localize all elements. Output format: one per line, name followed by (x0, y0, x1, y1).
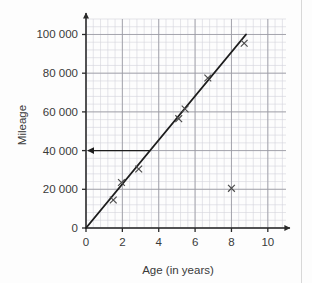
x-tick-label: 4 (156, 236, 163, 248)
axis-tick-marks (82, 34, 268, 232)
y-tick-label: 100 000 (36, 28, 78, 40)
x-axis-tick-labels: 0246810 (83, 236, 274, 248)
y-axis-tick-labels: 020 00040 00060 00080 000100 000 (36, 28, 78, 234)
data-point-marker (182, 106, 189, 113)
scatter-chart: 0246810 020 00040 00060 00080 000100 000… (0, 0, 312, 283)
x-tick-label: 2 (119, 236, 125, 248)
data-points (110, 40, 248, 204)
y-axis-title: Mileage (16, 105, 28, 145)
y-tick-label: 80 000 (43, 67, 78, 79)
x-tick-label: 8 (228, 236, 234, 248)
data-point-marker (110, 197, 117, 204)
y-tick-label: 20 000 (43, 183, 78, 195)
x-tick-label: 0 (83, 236, 89, 248)
y-tick-label: 40 000 (43, 145, 78, 157)
chart-canvas: 0246810 020 00040 00060 00080 000100 000… (0, 0, 312, 283)
x-axis-title: Age (in years) (142, 264, 214, 276)
data-point-marker (135, 166, 142, 173)
data-point-marker (241, 40, 248, 47)
y-tick-label: 0 (72, 222, 78, 234)
x-tick-label: 6 (192, 236, 198, 248)
chart-page: 0246810 020 00040 00060 00080 000100 000… (0, 0, 312, 283)
y-tick-label: 60 000 (43, 106, 78, 118)
x-tick-label: 10 (261, 236, 274, 248)
